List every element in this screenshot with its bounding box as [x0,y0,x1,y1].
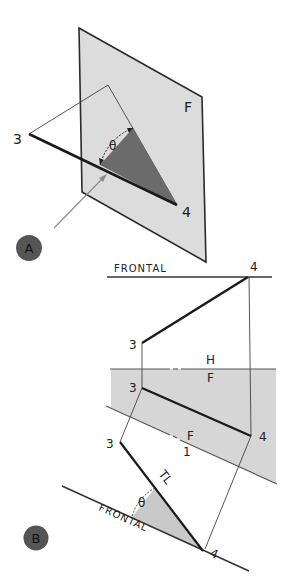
front-point-3-label: 3 [129,381,137,395]
line-3-4-top-view [142,277,248,343]
descriptive-geometry-diagram: F 3 4 θ A FRONTAL 4 3 H F 3 4 [0,0,292,585]
fold-f1-upper-label: F [187,429,194,443]
aux-point-3-label: 3 [106,437,114,451]
view-b: FRONTAL 4 3 H F 3 4 F 1 FRONTAL [24,260,278,571]
point-3-label: 3 [13,131,22,147]
top-point-3-label: 3 [129,338,137,352]
badge-a: A [16,235,42,261]
point-4-label: 4 [182,204,191,220]
theta-symbol: θ [109,139,116,153]
view-a: F 3 4 θ A [13,28,206,262]
pointer-arrow-line [54,177,104,228]
fold-f1-lower-label: 1 [183,445,191,459]
true-length-label: TL [155,467,175,488]
top-point-4-label: 4 [250,260,258,274]
badge-a-label: A [25,241,34,256]
aux-point-4-label: 4 [208,546,221,562]
aux-theta-symbol: θ [138,496,145,510]
badge-b: B [24,526,49,551]
frontal-label-top: FRONTAL [114,263,167,274]
fold-f-label: F [207,371,214,385]
fold-h-label: H [206,353,215,367]
front-point-4-label: 4 [259,430,267,444]
badge-b-label: B [32,531,41,546]
plane-label-f: F [184,99,192,115]
